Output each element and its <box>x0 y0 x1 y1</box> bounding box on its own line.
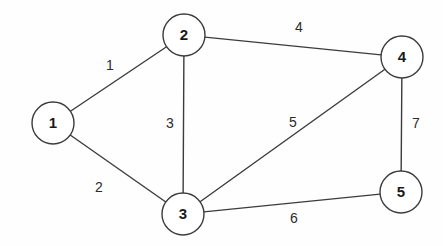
edge-weight-4-5: 7 <box>412 115 420 131</box>
edge-weight-2-3: 3 <box>166 115 174 131</box>
node-label-2: 2 <box>180 26 188 43</box>
node-label-1: 1 <box>49 114 57 131</box>
edge-4-5 <box>401 78 402 171</box>
edge-weight-3-4: 5 <box>289 114 297 130</box>
node-4[interactable]: 4 <box>381 36 423 78</box>
edge-2-3 <box>183 56 184 193</box>
node-label-4: 4 <box>398 48 407 65</box>
node-label-3: 3 <box>179 205 187 222</box>
node-1[interactable]: 1 <box>32 102 74 144</box>
node-2[interactable]: 2 <box>163 14 205 56</box>
edge-3-4 <box>200 69 385 202</box>
edge-weight-3-5: 6 <box>290 210 298 226</box>
node-5[interactable]: 5 <box>380 171 422 213</box>
edge-weight-1-2: 1 <box>106 57 114 73</box>
node-3[interactable]: 3 <box>162 193 204 235</box>
nodes-layer: 12345 <box>32 14 423 235</box>
edges-layer <box>70 37 402 212</box>
edge-weight-2-4: 4 <box>295 19 303 35</box>
edge-2-4 <box>205 37 381 55</box>
edge-1-3 <box>70 135 166 202</box>
edge-weight-1-3: 2 <box>95 179 103 195</box>
node-label-5: 5 <box>397 183 405 200</box>
edge-1-2 <box>70 47 166 112</box>
graph-diagram: 12345 1234567 <box>0 0 443 246</box>
graph-canvas: 12345 1234567 <box>0 0 443 246</box>
